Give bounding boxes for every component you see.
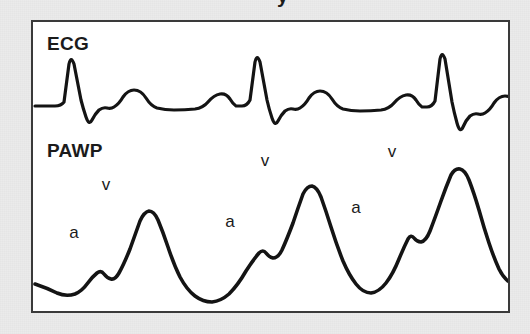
- channel-label-ecg: ECG: [47, 33, 89, 54]
- annotation-v-wave-3: v: [388, 142, 397, 161]
- channel-label-pawp: PAWP: [47, 140, 103, 161]
- annotation-a-wave-3: a: [351, 198, 361, 217]
- annotation-a-wave-2: a: [225, 212, 235, 231]
- clipped-title-descender: y: [277, 0, 288, 6]
- annotation-v-wave-2: v: [261, 151, 270, 170]
- figure-panel: ECG PAWP a v a v a v: [31, 20, 510, 313]
- ecg-trace: [35, 55, 508, 130]
- waveform-plot: ECG PAWP a v a v a v: [33, 22, 508, 311]
- annotation-v-wave-1: v: [102, 175, 111, 194]
- annotation-a-wave-1: a: [69, 223, 79, 242]
